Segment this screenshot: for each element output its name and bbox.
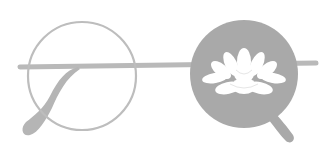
left-lens: [28, 22, 136, 130]
left-temple-arm: [23, 67, 80, 135]
glasses-graphic: [0, 0, 326, 152]
glasses-illustration: [0, 0, 326, 152]
